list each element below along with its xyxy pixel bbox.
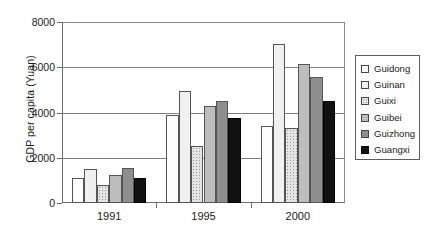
y-axis-tick [57,67,62,68]
legend-swatch-icon [361,97,369,105]
legend-item-label: Guibei [374,113,402,123]
x-axis-tick-label: 2000 [286,210,310,222]
legend-swatch-icon [361,114,369,122]
bar-guixi-1995 [191,146,203,203]
legend-item-guinan[interactable]: Guinan [361,77,419,93]
y-axis-tick [57,113,62,114]
bar-guinan-1991 [84,169,96,203]
legend-item-guidong[interactable]: Guidong [361,61,419,77]
y-axis-tick [57,158,62,159]
x-axis-tick-label: 1991 [97,210,121,222]
legend-item-label: Guixi [374,96,396,106]
bar-guangxi-2000 [323,101,335,203]
chart-figure: GDP per capita (Yuan) 02000400060008000 … [0,0,424,234]
bar-guibei-1991 [109,175,121,203]
legend-swatch-icon [361,81,369,89]
bar-guizhong-2000 [310,77,322,203]
legend-item-label: Guizhong [374,129,415,139]
legend-swatch-icon [361,146,369,154]
legend-item-guangxi[interactable]: Guangxi [361,142,419,158]
legend-swatch-icon [361,130,369,138]
bar-guixi-2000 [285,128,297,203]
bar-guizhong-1991 [122,168,134,203]
bar-guinan-2000 [273,44,285,204]
y-axis-tick-label: 6000 [32,62,55,72]
legend-item-guibei[interactable]: Guibei [361,110,419,126]
y-axis-tick [57,22,62,23]
bar-guibei-2000 [298,64,310,203]
bar-guangxi-1991 [134,178,146,203]
x-axis-tick-label: 1995 [191,210,215,222]
legend[interactable]: GuidongGuinanGuixiGuibeiGuizhongGuangxi [355,55,420,160]
bar-guidong-2000 [261,126,273,203]
y-axis-tick-label: 0 [49,198,55,208]
x-axis-tick [156,203,157,208]
legend-item-label: Guidong [374,64,410,74]
y-axis-tick-label: 8000 [32,17,55,27]
bar-guangxi-1995 [228,118,240,203]
legend-item-guixi[interactable]: Guixi [361,93,419,109]
y-axis-tick-label: 2000 [32,153,55,163]
bar-guixi-1991 [97,185,109,203]
plot-area: 02000400060008000 199119952000 [62,22,345,203]
bar-guizhong-1995 [216,101,228,203]
bar-guibei-1995 [204,106,216,203]
legend-item-label: Guinan [374,80,405,90]
bar-guidong-1995 [166,115,178,203]
bar-guinan-1995 [179,91,191,203]
y-axis-tick [57,203,62,204]
legend-item-label: Guangxi [374,145,410,155]
bar-guidong-1991 [72,178,84,203]
x-axis-tick [251,203,252,208]
legend-swatch-icon [361,65,369,73]
legend-item-guizhong[interactable]: Guizhong [361,126,419,142]
y-axis-tick-label: 4000 [32,108,55,118]
